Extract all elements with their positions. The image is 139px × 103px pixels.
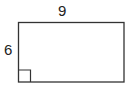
height-label: 6 bbox=[4, 41, 12, 58]
rectangle bbox=[19, 23, 125, 83]
right-angle-marker bbox=[19, 70, 31, 82]
rectangle-diagram: 9 6 bbox=[0, 0, 139, 103]
width-label: 9 bbox=[58, 2, 66, 19]
